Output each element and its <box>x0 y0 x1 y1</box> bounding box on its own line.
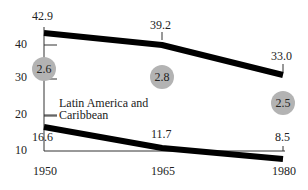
value-label-8-5: 8.5 <box>275 130 290 144</box>
value-label-42-9: 42.9 <box>32 9 53 23</box>
x-tick-label-1950: 1950 <box>33 164 57 178</box>
value-label-16-6: 16.6 <box>32 130 53 144</box>
ratio-label-1965: 2.8 <box>155 70 170 84</box>
x-tick-label-1965: 1965 <box>151 164 175 178</box>
y-tick-label-40: 40 <box>15 37 27 51</box>
line-chart: 40 30 20 10 1950 1965 1980 42.9 39.2 33.… <box>0 0 308 190</box>
y-tick-label-20: 20 <box>15 107 27 121</box>
x-tick-label-1980: 1980 <box>272 164 296 178</box>
value-label-39-2: 39.2 <box>150 18 171 32</box>
ratio-circle-1980: 2.5 <box>271 91 295 115</box>
y-tick-label-30: 30 <box>15 70 27 84</box>
value-label-11-7: 11.7 <box>151 127 172 141</box>
ratio-circle-1965: 2.8 <box>150 65 174 89</box>
ratio-circle-1950: 2.6 <box>32 57 56 81</box>
ratio-label-1980: 2.5 <box>276 96 291 110</box>
ratio-label-1950: 2.6 <box>37 62 52 76</box>
value-label-33-0: 33.0 <box>271 49 292 63</box>
series-label-line2: Caribbean <box>59 108 108 122</box>
y-tick-label-10: 10 <box>15 143 27 157</box>
